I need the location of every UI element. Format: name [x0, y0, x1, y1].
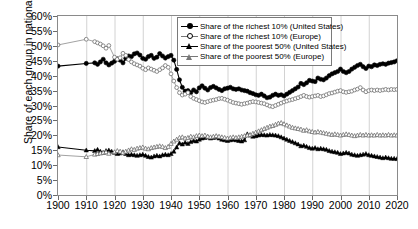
income-share-chart: Share of each group in national income 0… [0, 0, 418, 229]
filled-triangle-icon [181, 41, 198, 51]
x-tick-label: 1950 [188, 199, 211, 211]
x-tick-mark [397, 196, 398, 200]
data-point [155, 55, 159, 59]
legend-item: Share of the richest 10% (United States) [181, 21, 327, 31]
x-tick-mark [58, 196, 59, 200]
x-tick-label: 1960 [216, 199, 239, 211]
legend-label: Share of the poorest 50% (Europe) [198, 52, 324, 61]
data-point [169, 53, 173, 57]
data-point [177, 78, 181, 82]
x-tick-mark [341, 196, 342, 200]
legend-label: Share of the richest 10% (United States) [198, 22, 343, 31]
data-point [313, 80, 317, 84]
x-tick-mark [143, 196, 144, 200]
x-tick-mark [312, 196, 313, 200]
data-point [186, 91, 190, 95]
data-point [194, 90, 198, 94]
chart-legend: Share of the richest 10% (United States)… [177, 17, 332, 66]
x-tick-label: 1930 [131, 199, 154, 211]
data-point [101, 57, 105, 61]
data-point [180, 85, 184, 89]
data-point [121, 61, 125, 65]
x-tick-label: 1970 [244, 199, 267, 211]
data-point [172, 58, 176, 62]
data-point [107, 44, 111, 48]
open-circle-icon [181, 31, 198, 41]
x-tick-label: 1980 [272, 199, 295, 211]
x-tick-label: 1900 [46, 199, 69, 211]
data-point [84, 37, 88, 41]
data-point [395, 87, 397, 91]
filled-circle-icon [181, 21, 198, 31]
x-tick-label: 1990 [301, 199, 324, 211]
data-point [84, 61, 88, 65]
data-point [395, 59, 397, 63]
y-axis-title: Share of each group in national income [22, 0, 34, 144]
y-tick-label: 15% [6, 144, 52, 156]
data-point [124, 53, 128, 57]
x-tick-mark [171, 196, 172, 200]
x-tick-label: 1920 [103, 199, 126, 211]
data-point [58, 64, 60, 68]
legend-item: Share of the richest 10% (Europe) [181, 31, 327, 41]
data-point [58, 153, 60, 157]
x-tick-label: 1910 [75, 199, 98, 211]
x-tick-mark [256, 196, 257, 200]
data-point [58, 43, 60, 47]
data-point [296, 85, 300, 89]
data-point [175, 86, 179, 90]
x-tick-mark [199, 196, 200, 200]
x-tick-label: 2020 [385, 199, 408, 211]
legend-item: Share of the poorest 50% (Europe) [181, 52, 327, 62]
x-tick-mark [115, 196, 116, 200]
data-point [84, 155, 88, 159]
data-point [175, 67, 179, 71]
y-tick-label: 0% [6, 189, 52, 201]
x-tick-label: 2010 [357, 199, 380, 211]
data-point [118, 56, 122, 60]
x-tick-mark [284, 196, 285, 200]
x-tick-label: 2000 [329, 199, 352, 211]
legend-label: Share of the poorest 50% (United States) [198, 42, 346, 51]
open-triangle-icon [181, 52, 198, 62]
x-tick-mark [86, 196, 87, 200]
legend-label: Share of the richest 10% (Europe) [198, 32, 321, 41]
data-point [166, 65, 170, 69]
y-tick-label: 5% [6, 174, 52, 186]
x-tick-mark [228, 196, 229, 200]
data-point [169, 72, 173, 76]
legend-item: Share of the poorest 50% (United States) [181, 41, 327, 51]
x-tick-mark [369, 196, 370, 200]
y-tick-label: 10% [6, 159, 52, 171]
data-point [172, 79, 176, 83]
x-tick-label: 1940 [159, 199, 182, 211]
